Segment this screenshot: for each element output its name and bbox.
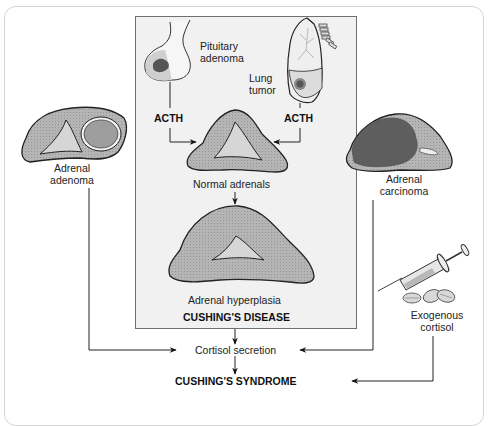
cushings-disease-heading: CUSHING'S DISEASE	[183, 311, 290, 323]
adrenal-carcinoma-label: Adrenal carcinoma	[374, 173, 434, 197]
pill-icon	[403, 287, 456, 304]
adrenal-hyperplasia-label: Adrenal hyperplasia	[188, 294, 281, 306]
lung-label-line1: Lung	[249, 72, 276, 84]
exogenous-label-line1: Exogenous	[404, 309, 470, 321]
adrenal-adenoma-icon	[22, 107, 127, 162]
adrenal-adenoma-label: Adrenal adenoma	[42, 162, 102, 186]
exogenous-cortisol-label: Exogenous cortisol	[404, 309, 470, 333]
lung-label-line2: tumor	[249, 84, 276, 96]
adrenal-carcinoma-icon	[347, 114, 453, 172]
exogenous-label-line2: cortisol	[404, 321, 470, 333]
acth-right-label: ACTH	[284, 112, 313, 124]
acth-right-arrow	[274, 128, 300, 142]
pituitary-label-line2: adenoma	[200, 52, 244, 64]
pituitary-gland-icon	[145, 20, 191, 108]
cushings-syndrome-label: CUSHING'S SYNDROME	[175, 375, 297, 387]
pituitary-label-line1: Pituitary	[200, 40, 244, 52]
syringe-icon	[378, 244, 470, 291]
adrenal-gland-icon	[187, 110, 287, 172]
acth-left-label: ACTH	[154, 112, 183, 124]
carcinoma-label-line1: Adrenal	[374, 173, 434, 185]
lung-icon	[288, 18, 337, 108]
acth-left-arrow	[170, 128, 196, 142]
adrenal-hyperplasia-icon	[169, 206, 314, 283]
carcinoma-label-line2: carcinoma	[374, 185, 434, 197]
cortisol-secretion-label: Cortisol secretion	[195, 344, 276, 356]
pituitary-adenoma-label: Pituitary adenoma	[200, 40, 244, 64]
normal-adrenals-label: Normal adrenals	[193, 178, 270, 190]
adenoma-label-line2: adenoma	[42, 174, 102, 186]
lung-tumor-label: Lung tumor	[249, 72, 276, 96]
adenoma-label-line1: Adrenal	[42, 162, 102, 174]
